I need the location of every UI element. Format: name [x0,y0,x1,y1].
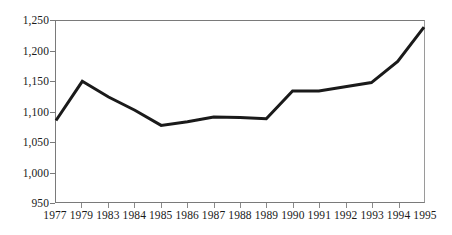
series-line [56,21,424,202]
x-tick-mark [319,203,320,208]
x-tick-label: 1985 [149,208,172,222]
y-tick-mark [50,203,55,204]
x-tick-label: 1990 [281,208,304,222]
x-tick-mark [187,203,188,208]
x-tick-mark [81,203,82,208]
y-tick-label: 1,050 [0,136,49,148]
x-tick-label: 1993 [360,208,383,222]
x-tick-mark [240,203,241,208]
x-tick-mark [293,203,294,208]
x-tick-label: 1991 [308,208,331,222]
x-tick-label: 1989 [255,208,278,222]
x-tick-label: 1986 [175,208,198,222]
y-tick-mark [50,142,55,143]
x-tick-mark [346,203,347,208]
x-tick-mark [214,203,215,208]
series-polyline [56,27,424,125]
y-tick-label: 1,100 [0,106,49,118]
x-tick-mark [108,203,109,208]
y-tick-label: 1,250 [0,14,49,26]
x-tick-label: 1984 [123,208,146,222]
x-tick-mark [266,203,267,208]
plot-area [55,20,425,203]
x-tick-mark [372,203,373,208]
y-tick-mark [50,173,55,174]
x-axis: 1977197919831984198519861987198819891990… [55,208,425,228]
y-tick-label: 950 [0,197,49,209]
y-tick-mark [50,81,55,82]
x-tick-mark [399,203,400,208]
x-tick-label: 1979 [70,208,93,222]
y-tick-label: 1,000 [0,167,49,179]
y-tick-label: 1,150 [0,75,49,87]
y-tick-mark [50,112,55,113]
y-tick-mark [50,20,55,21]
y-tick-mark [50,51,55,52]
x-tick-label: 1995 [413,208,436,222]
x-tick-label: 1994 [387,208,410,222]
x-tick-label: 1992 [334,208,357,222]
x-tick-mark [161,203,162,208]
y-tick-label: 1,200 [0,45,49,57]
x-tick-label: 1977 [43,208,66,222]
x-tick-label: 1987 [202,208,225,222]
y-axis: 1,2501,2001,1501,1001,0501,000950 [0,0,49,235]
line-chart-figure: 1,2501,2001,1501,1001,0501,000950 197719… [0,0,452,235]
x-tick-mark [134,203,135,208]
x-tick-label: 1988 [228,208,251,222]
x-tick-label: 1983 [96,208,119,222]
